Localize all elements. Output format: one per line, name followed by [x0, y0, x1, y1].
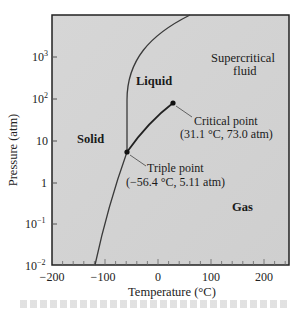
svg-text:102: 102: [32, 91, 48, 106]
svg-text:−100: −100: [91, 270, 116, 284]
y-axis-title: Pressure (atm): [6, 114, 20, 187]
region-label-supercritical-fluid: fluid: [233, 64, 257, 78]
region-label-solid: Solid: [77, 132, 104, 146]
x-tick-labels: −200 −100 0 100 200: [40, 270, 273, 284]
region-label-liquid: Liquid: [136, 74, 172, 88]
svg-text:−200: −200: [40, 270, 65, 284]
y-tick-labels: 103 102 10 1 10−1 10−2: [25, 49, 48, 273]
region-label-supercritical: Supercritical: [211, 51, 275, 65]
svg-text:10: 10: [36, 134, 48, 148]
svg-text:103: 103: [32, 49, 48, 64]
triple-point-title: Triple point: [147, 161, 204, 175]
phase-diagram-chart: Solid Liquid Gas Supercritical fluid Cri…: [0, 0, 302, 310]
svg-text:1: 1: [41, 176, 47, 190]
figure-caption-cropped: [20, 300, 290, 308]
svg-text:100: 100: [202, 270, 220, 284]
critical-point-title: Critical point: [194, 114, 258, 128]
svg-text:10−1: 10−1: [25, 216, 46, 231]
critical-point-marker: [170, 100, 175, 105]
svg-text:200: 200: [255, 270, 273, 284]
x-axis-title: Temperature (°C): [128, 285, 216, 299]
triple-point-marker: [124, 149, 129, 154]
region-label-gas: Gas: [232, 200, 253, 214]
triple-point-value: (−56.4 °C, 5.11 atm): [126, 175, 225, 189]
svg-text:0: 0: [155, 270, 161, 284]
critical-point-value: (31.1 °C, 73.0 atm): [180, 127, 273, 141]
